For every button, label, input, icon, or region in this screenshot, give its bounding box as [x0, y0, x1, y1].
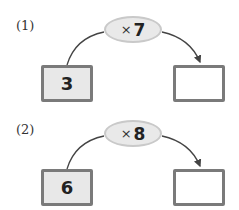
- multiplier-value: 8: [134, 124, 146, 144]
- input-box: 6: [41, 169, 93, 206]
- operator-ellipse: × 7: [104, 16, 162, 43]
- problem-2: (2) × 8 6: [0, 104, 239, 209]
- answer-box[interactable]: [173, 169, 225, 206]
- answer-box[interactable]: [173, 65, 225, 102]
- multiply-sign: ×: [121, 126, 132, 141]
- multiply-sign: ×: [121, 22, 132, 37]
- multiplier-value: 7: [134, 20, 146, 40]
- operator-ellipse: × 8: [104, 120, 162, 147]
- problem-1: (1) × 7 3: [0, 0, 239, 105]
- input-box: 3: [41, 65, 93, 102]
